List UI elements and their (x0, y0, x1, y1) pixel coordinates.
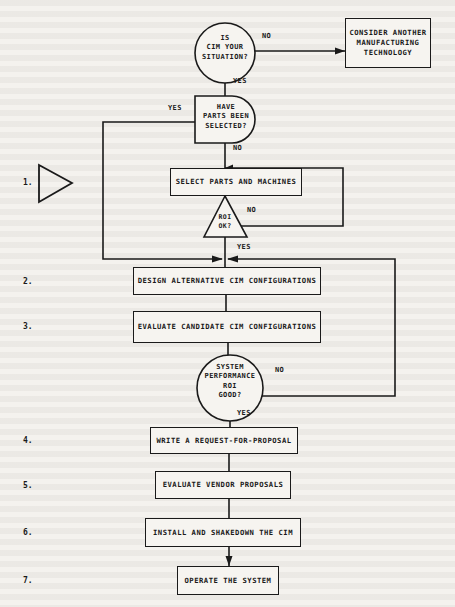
process-label: OPERATE THE SYSTEM (185, 576, 272, 586)
process-operate-system: OPERATE THE SYSTEM (177, 566, 279, 595)
edge-label-parts-yes: YES (168, 104, 182, 112)
process-design-alternatives: DESIGN ALTERNATIVE CIM CONFIGURATIONS (133, 267, 321, 295)
decision-cim-situation: IS CIM YOUR SITUATION? (196, 34, 254, 62)
process-label: DESIGN ALTERNATIVE CIM CONFIGURATIONS (138, 276, 317, 286)
process-install-shakedown: INSTALL AND SHAKEDOWN THE CIM (145, 518, 301, 547)
step-number-1: 1. (23, 178, 33, 187)
consider-another-technology-box: CONSIDER ANOTHER MANUFACTURING TECHNOLOG… (345, 18, 431, 68)
step-1-triangle-icon (39, 165, 72, 202)
step-number-6: 6. (23, 528, 33, 537)
process-evaluate-vendor: EVALUATE VENDOR PROPOSALS (155, 471, 291, 499)
process-label: EVALUATE VENDOR PROPOSALS (163, 480, 284, 490)
edge-label-roi-no: NO (247, 206, 256, 214)
edge-label-parts-no: NO (233, 144, 242, 152)
edge-label-cim-yes: YES (233, 77, 247, 85)
step-number-5: 5. (23, 481, 33, 490)
process-label: SELECT PARTS AND MACHINES (176, 177, 297, 187)
step-number-4: 4. (23, 436, 33, 445)
step-number-2: 2. (23, 277, 33, 286)
step-number-3: 3. (23, 322, 33, 331)
consider-another-technology-label: CONSIDER ANOTHER MANUFACTURING TECHNOLOG… (349, 28, 426, 57)
process-select-parts: SELECT PARTS AND MACHINES (170, 168, 302, 196)
process-label: WRITE A REQUEST-FOR-PROPOSAL (156, 436, 291, 446)
decision-parts-selected: HAVE PARTS BEEN SELECTED? (196, 103, 256, 131)
decision-roi-ok: ROI OK? (210, 213, 240, 231)
edge-label-system-yes: YES (237, 409, 251, 417)
flowchart-connectors (0, 0, 455, 607)
process-label: EVALUATE CANDIDATE CIM CONFIGURATIONS (138, 322, 317, 332)
decision-system-good: SYSTEM PERFORMANCE ROI GOOD? (197, 363, 263, 401)
process-write-rfp: WRITE A REQUEST-FOR-PROPOSAL (150, 427, 298, 454)
step-number-7: 7. (23, 576, 33, 585)
edge-label-roi-yes: YES (237, 243, 251, 251)
process-evaluate-candidates: EVALUATE CANDIDATE CIM CONFIGURATIONS (133, 311, 321, 343)
edge-label-cim-no: NO (262, 32, 271, 40)
process-label: INSTALL AND SHAKEDOWN THE CIM (153, 528, 293, 538)
edge-label-system-no: NO (275, 366, 284, 374)
